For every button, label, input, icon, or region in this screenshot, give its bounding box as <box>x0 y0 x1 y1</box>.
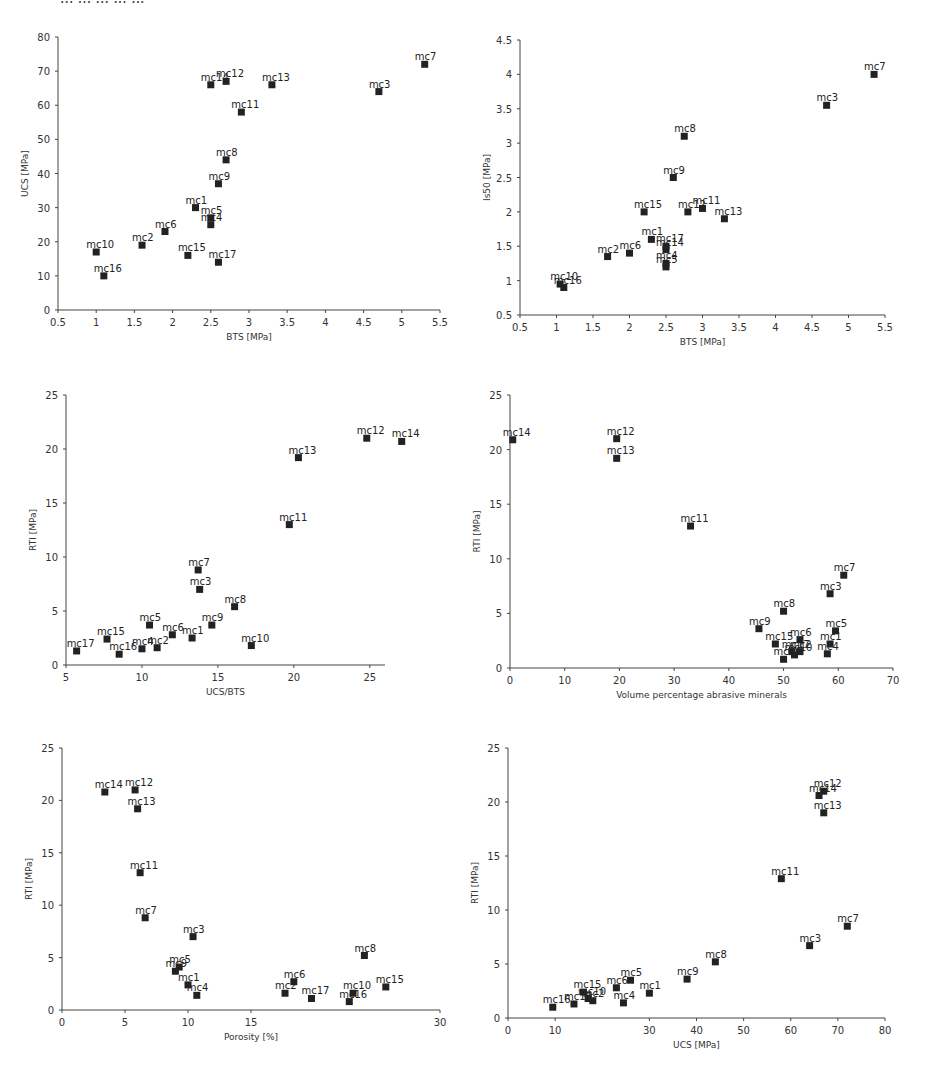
x-axis-label: Porosity [%] <box>224 1032 278 1042</box>
point-label: mc5 <box>201 205 223 216</box>
data-point: mc17 <box>67 638 95 655</box>
data-point: mc8 <box>216 147 238 164</box>
x-axis-label: BTS [MPa] <box>680 337 726 347</box>
data-point: mc13 <box>814 800 842 817</box>
point-label: mc5 <box>656 254 678 265</box>
data-point: mc12 <box>607 426 635 443</box>
data-point: mc12 <box>678 199 706 216</box>
y-axis-label: RTI [MPa] <box>24 858 34 900</box>
x-tick-label: 0 <box>505 1025 511 1036</box>
y-tick-label: 0 <box>44 305 50 316</box>
point-label: mc10 <box>86 239 114 250</box>
point-label: mc14 <box>809 783 837 794</box>
point-label: mc12 <box>678 199 706 210</box>
chart-rti-vs-ucs-bts: 0510152025510152025UCS/BTSRTI [MPa]mc1mc… <box>0 385 465 710</box>
chart-rti-vs-ucs: 0510152025010304050607080UCS [MPa]RTI [M… <box>465 738 929 1078</box>
data-point: mc12 <box>125 777 153 794</box>
data-point: mc9 <box>202 612 224 629</box>
point-label: mc3 <box>820 581 842 592</box>
point-label: mc12 <box>125 777 153 788</box>
point-label: mc9 <box>749 616 771 627</box>
x-tick-label: 15 <box>212 672 225 683</box>
data-point: mc3 <box>183 924 205 941</box>
data-point: mc15 <box>178 242 206 259</box>
x-tick-label: 2 <box>169 317 175 328</box>
y-axis-label: RTI [MPa] <box>470 862 480 904</box>
x-tick-label: 10 <box>558 675 571 686</box>
point-label: mc6 <box>606 975 628 986</box>
data-point: mc11 <box>231 99 259 116</box>
y-tick-label: 0 <box>494 1013 500 1024</box>
point-label: mc9 <box>208 171 230 182</box>
point-label: mc15 <box>634 199 662 210</box>
y-tick-label: 20 <box>41 795 54 806</box>
point-label: mc14 <box>503 427 531 438</box>
point-label: mc1 <box>178 972 200 983</box>
y-tick-label: 10 <box>41 900 54 911</box>
x-tick-label: 30 <box>434 1017 447 1028</box>
data-point: mc1 <box>182 625 204 642</box>
point-label: mc2 <box>598 244 620 255</box>
y-tick-label: 5 <box>52 606 58 617</box>
x-tick-label: 0 <box>59 1017 65 1028</box>
x-tick-label: 2.5 <box>658 322 674 333</box>
y-tick-label: 10 <box>487 905 500 916</box>
data-point: mc9 <box>208 171 230 188</box>
y-tick-label: 2 <box>506 207 512 218</box>
data-point: mc3 <box>190 576 212 593</box>
data-point: mc8 <box>354 943 376 960</box>
data-point: mc14 <box>201 72 229 89</box>
data-point: mc15 <box>97 626 125 643</box>
point-label: mc8 <box>674 123 696 134</box>
point-label: mc7 <box>864 61 886 72</box>
x-tick-label: 1 <box>553 322 559 333</box>
data-point: mc6 <box>606 975 628 992</box>
chart-is50-vs-bts: 0.511.522.533.544.50.511.522.533.544.555… <box>465 25 929 360</box>
data-point: mc5 <box>140 612 162 629</box>
data-point: mc15 <box>634 199 662 216</box>
point-label: mc11 <box>681 513 709 524</box>
x-tick-label: 4.5 <box>804 322 820 333</box>
point-label: mc7 <box>188 557 210 568</box>
point-label: mc11 <box>771 866 799 877</box>
point-label: mc17 <box>564 991 592 1002</box>
data-point: mc8 <box>225 594 247 611</box>
x-tick-label: 3 <box>699 322 705 333</box>
data-point: mc15 <box>376 974 404 991</box>
point-label: mc4 <box>187 982 209 993</box>
data-point: mc7 <box>834 562 856 579</box>
y-axis-label: UCS [MPa] <box>20 150 30 197</box>
x-tick-label: 3.5 <box>731 322 747 333</box>
data-point: mc6 <box>620 240 642 257</box>
x-tick-label: 4 <box>322 317 328 328</box>
data-point: mc16 <box>339 989 367 1006</box>
point-label: mc9 <box>165 958 187 969</box>
y-tick-label: 40 <box>37 169 50 180</box>
data-points: mc1mc2mc3mc4mc5mc6mc7mc8mc9mc10mc11mc12m… <box>550 61 886 291</box>
data-point: mc17 <box>301 985 329 1002</box>
point-label: mc13 <box>814 800 842 811</box>
y-tick-label: 1 <box>506 276 512 287</box>
y-tick-label: 0.5 <box>496 310 512 321</box>
y-tick-label: 10 <box>37 271 50 282</box>
data-point: mc14 <box>95 779 123 796</box>
y-tick-label: 3.5 <box>496 104 512 115</box>
point-label: mc5 <box>140 612 162 623</box>
point-label: mc10 <box>241 633 269 644</box>
data-point: mc10 <box>86 239 114 256</box>
point-label: mc12 <box>357 425 385 436</box>
y-tick-label: 70 <box>37 66 50 77</box>
data-point: mc9 <box>663 165 685 182</box>
x-tick-label: 5 <box>399 317 405 328</box>
x-tick-label: 0 <box>507 675 513 686</box>
y-axis-label: RTI [MPa] <box>28 509 38 551</box>
x-tick-label: 0.5 <box>512 322 528 333</box>
point-label: mc4 <box>817 641 839 652</box>
data-point: mc13 <box>714 206 742 223</box>
x-tick-label: 10 <box>549 1025 562 1036</box>
point-label: mc8 <box>705 949 727 960</box>
x-tick-label: 4.5 <box>356 317 372 328</box>
x-tick-label: 5.5 <box>432 317 448 328</box>
point-label: mc13 <box>128 796 156 807</box>
data-point: mc16 <box>109 641 137 658</box>
